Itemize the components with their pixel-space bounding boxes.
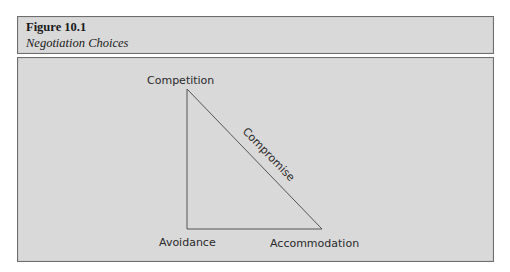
negotiation-triangle-diagram: Competition Avoidance Accommodation Comp… (0, 0, 510, 272)
label-avoidance: Avoidance (159, 236, 216, 249)
triangle-shape (187, 89, 322, 229)
label-accommodation: Accommodation (270, 237, 359, 250)
label-compromise: Compromise (240, 125, 298, 184)
label-competition: Competition (147, 74, 214, 87)
